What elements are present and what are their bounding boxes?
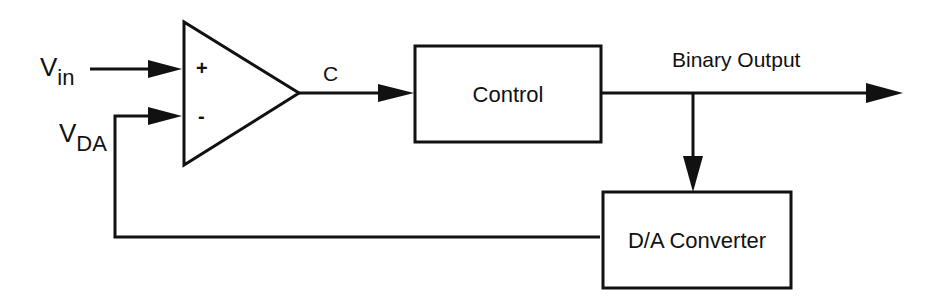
plus-sign: + (196, 57, 208, 80)
vda-sub: DA (76, 131, 107, 156)
arrow-down-icon (683, 156, 703, 192)
vda-label: VDA (59, 118, 107, 149)
diagram-canvas (0, 0, 945, 303)
arrow-right-icon (378, 84, 414, 102)
dac-label: D/A Converter (603, 228, 791, 254)
c-label: C (323, 62, 338, 86)
comparator-triangle (184, 22, 299, 165)
vda-main: V (59, 118, 76, 148)
binary-output-label: Binary Output (672, 48, 800, 72)
vin-main: V (40, 52, 57, 82)
feedback-wire (115, 116, 600, 237)
arrow-right-icon (148, 60, 182, 78)
arrow-right-icon (866, 83, 903, 103)
arrow-right-icon (148, 107, 182, 125)
vin-sub: in (57, 65, 74, 90)
control-label: Control (415, 82, 601, 108)
vin-label: Vin (40, 52, 74, 83)
minus-sign: - (198, 105, 205, 128)
